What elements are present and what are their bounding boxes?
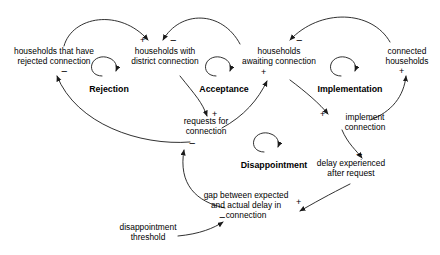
loop-label-disappointment: Disappointment xyxy=(228,160,320,170)
node-households-awaiting-line2: awaiting connection xyxy=(234,56,324,66)
node-requests-line2: connection xyxy=(170,126,242,136)
node-households-district-line1: households with xyxy=(122,46,208,56)
sign-implement-to-delay: − xyxy=(356,150,362,159)
node-households-awaiting-line1: households xyxy=(234,46,324,56)
loop-label-implementation: Implementation xyxy=(306,84,394,94)
sign-implement-to-connected: + xyxy=(399,67,404,76)
sign-threshold-to-gap: − xyxy=(219,213,225,222)
sign-requests-to-awaiting: + xyxy=(261,68,266,77)
edge-threshold-to-gap xyxy=(178,222,223,236)
node-implement-connection: implement connection xyxy=(331,112,399,132)
node-threshold-line1: disappointment xyxy=(112,222,184,232)
node-households-rejected-line1: households that have xyxy=(4,46,104,56)
node-households-district: households with district connection xyxy=(122,46,208,66)
node-requests-line1: requests for xyxy=(170,116,242,126)
node-delay-experienced: delay experienced after request xyxy=(307,158,395,178)
node-gap-expected-actual-delay: gap between expected and actual delay in… xyxy=(196,190,296,220)
edge-delay-to-gap xyxy=(300,184,350,211)
node-connected-households: connected households xyxy=(376,46,438,66)
loop-icon-implementation xyxy=(330,57,355,76)
sign-awaiting-to-implement: + xyxy=(320,110,325,119)
loop-label-rejection: Rejection xyxy=(78,84,140,94)
edge-rejected-to-district xyxy=(64,19,148,46)
node-connected-households-line2: households xyxy=(376,56,438,66)
sign-awaiting-incoming-minus: − xyxy=(296,36,302,45)
node-disappointment-threshold: disappointment threshold xyxy=(112,222,184,242)
loop-label-acceptance: Acceptance xyxy=(190,84,258,94)
loop-icon-disappointment xyxy=(253,133,278,152)
causal-loop-diagram: households that have rejected connection… xyxy=(0,0,440,255)
sign-district-to-requests: + xyxy=(212,110,217,119)
edge-connected-to-awaiting xyxy=(290,17,390,42)
sign-district-incoming-minus: − xyxy=(170,36,176,45)
node-implement-line1: implement xyxy=(331,112,399,122)
node-gap-line1: gap between expected xyxy=(196,190,296,200)
node-gap-line2: and actual delay in xyxy=(196,200,296,210)
node-gap-line3: connection xyxy=(196,210,296,220)
node-households-rejected: households that have rejected connection xyxy=(4,46,104,66)
sign-requests-to-rejected: − xyxy=(61,67,67,76)
node-threshold-line2: threshold xyxy=(112,232,184,242)
sign-delay-to-gap: + xyxy=(296,198,301,207)
node-households-rejected-line2: rejected connection xyxy=(4,56,104,66)
node-households-district-line2: district connection xyxy=(122,56,208,66)
loop-icon-acceptance xyxy=(205,57,230,76)
sign-gap-to-requests: − xyxy=(189,139,195,148)
sign-rejected-to-district: + xyxy=(140,36,145,45)
node-implement-line2: connection xyxy=(331,122,399,132)
node-delay-line1: delay experienced xyxy=(307,158,395,168)
edge-district-to-requests xyxy=(180,76,207,116)
node-requests-for-connection: requests for connection xyxy=(170,116,242,136)
node-households-awaiting: households awaiting connection xyxy=(234,46,324,66)
node-connected-households-line1: connected xyxy=(376,46,438,56)
node-delay-line2: after request xyxy=(307,168,395,178)
